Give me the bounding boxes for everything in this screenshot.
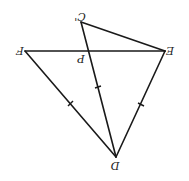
label-D: D [110,159,120,172]
geometry-diagram: C' F E P D [0,0,189,181]
segment-CprimeE [81,22,165,51]
label-C-prime: C' [74,10,85,23]
label-F: F [16,44,25,57]
label-P: P [77,52,86,65]
tick-mark-PD [95,86,101,88]
label-E: E [166,44,175,57]
